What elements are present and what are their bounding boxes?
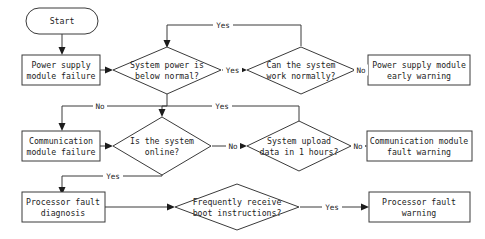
node-communication-module-failure[interactable]: Communication module failure xyxy=(22,131,100,161)
edge-label-yes-boot-to-warn: Yes xyxy=(322,202,342,213)
node-processor-fault-diagnosis[interactable]: Processor fault diagnosis xyxy=(22,192,105,222)
node-is-system-online[interactable]: Is the system online? xyxy=(113,117,211,175)
edge-label-no-upload-to-warn: No xyxy=(351,141,365,152)
power-low-label-line1: System power is xyxy=(130,60,204,70)
no-power-to-comm-text: No xyxy=(95,102,105,111)
node-can-system-work-normally[interactable]: Can the system work normally? xyxy=(247,47,355,94)
work-normal-label-line1: Can the system xyxy=(266,60,335,70)
yes-mid-loop-text: Yes xyxy=(215,102,229,111)
node-start[interactable]: Start xyxy=(26,8,98,34)
yes-boot-to-warn-text: Yes xyxy=(325,203,339,212)
comm-fail-label-line1: Communication xyxy=(29,136,93,146)
proc-warn-label-line2: warning xyxy=(402,208,437,218)
node-power-supply-module-early-warning[interactable]: Power supply module early warning xyxy=(368,55,470,85)
flowchart-canvas: Can the system work normally? --> Power … xyxy=(0,0,485,239)
comm-fail-label-line2: module failure xyxy=(26,147,95,157)
edge-power-fail-to-power-low xyxy=(100,67,113,74)
power-warn-label-line1: Power supply module xyxy=(372,60,466,70)
comm-warn-label-line1: Communication module xyxy=(370,136,469,146)
sys-online-label-line1: Is the system xyxy=(130,136,194,146)
start-label: Start xyxy=(50,16,75,26)
proc-diag-label-line1: Processor fault xyxy=(26,197,100,207)
edge-label-yes-top-loop: Yes xyxy=(213,20,233,31)
yes-top-loop-text: Yes xyxy=(216,21,230,30)
no-online-to-upload-text: No xyxy=(228,142,238,151)
node-communication-module-fault-warning[interactable]: Communication module fault warning xyxy=(367,131,472,161)
sys-online-label-line2: online? xyxy=(145,147,180,157)
edge-label-no-work-to-warn: No xyxy=(354,65,368,76)
no-work-to-warn-text: No xyxy=(356,66,366,75)
edge-label-no-power-to-comm: No xyxy=(93,101,107,112)
proc-warn-label-line1: Processor fault xyxy=(382,197,456,207)
upload-1h-label-line2: data in 1 hours? xyxy=(260,147,339,157)
edge-label-no-online-to-upload: No xyxy=(226,141,240,152)
power-warn-label-line2: early warning xyxy=(387,71,451,81)
upload-1h-label-line1: System upload xyxy=(267,136,331,146)
power-fail-label-line2: module failure xyxy=(26,71,95,81)
comm-warn-label-line2: fault warning xyxy=(387,147,451,157)
node-frequently-receive-boot-instructions[interactable]: Frequently receive boot instructions? xyxy=(175,184,299,230)
node-power-supply-module-failure[interactable]: Power supply module failure xyxy=(22,55,100,85)
boot-freq-label-line2: boot instructions? xyxy=(193,208,282,218)
work-normal-label-line2: work normally? xyxy=(266,71,335,81)
yes-power-to-work-text: Yes xyxy=(226,66,240,75)
edge-label-yes-online-to-proc: Yes xyxy=(103,171,123,182)
edge-start-to-power-fail xyxy=(59,34,66,55)
yes-online-to-proc-text: Yes xyxy=(106,172,120,181)
edge-proc-diag-to-boot-freq xyxy=(105,204,175,211)
edge-label-yes-mid-loop: Yes xyxy=(212,101,232,112)
node-processor-fault-warning[interactable]: Processor fault warning xyxy=(369,192,470,222)
edge-label-yes-power-to-work: Yes xyxy=(223,65,242,76)
edge-comm-fail-to-sys-online xyxy=(100,143,113,150)
node-system-upload-data-1-hour[interactable]: System upload data in 1 hours? xyxy=(247,121,351,171)
boot-freq-label-line1: Frequently receive xyxy=(193,197,282,207)
proc-diag-label-line2: diagnosis xyxy=(41,208,85,218)
no-upload-to-warn-text: No xyxy=(353,142,363,151)
flowchart-svg: Can the system work normally? --> Power … xyxy=(0,0,485,239)
node-system-power-below-normal[interactable]: System power is below normal? xyxy=(113,47,221,94)
power-low-label-line2: below normal? xyxy=(135,71,199,81)
power-fail-label-line1: Power supply xyxy=(31,60,90,70)
